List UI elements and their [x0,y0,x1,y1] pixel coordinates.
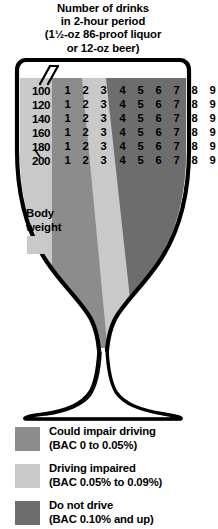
chart-legend: Could impair driving (BAC 0 to 0.05%) Dr… [0,425,206,529]
drink-cell: 9 [207,98,218,111]
body-weight-line-1: Body [26,207,61,221]
legend-text-driving-impaired: Driving impaired (BAC 0.05% to 0.09%) [49,461,207,489]
legend-text-do-not-drive: Do not drive (BAC 0.10% and up) [49,498,207,526]
legend-swatch-do-not-drive [15,501,40,525]
glass-stem-right [107,350,164,414]
legend-sublabel: (BAC 0.10% and up) [49,512,207,526]
legend-sublabel: (BAC 0.05% to 0.09%) [49,475,207,489]
glass-stem-left [44,350,99,414]
legend-swatch-could-impair-driving [15,427,40,451]
legend-item-driving-impaired: Driving impaired (BAC 0.05% to 0.09%) [0,462,206,495]
legend-label: Driving impaired [49,461,207,475]
legend-swatch-driving-impaired [15,464,40,488]
body-weight-callout-label: Body weight [26,207,61,234]
body-weight-swatch [27,236,48,254]
drink-cell: 9 [207,84,218,97]
wine-glass-illustration: 100 1 2 3 4 5 6 7 8 [0,0,206,424]
legend-item-could-impair-driving: Could impair driving (BAC 0 to 0.05%) [0,425,206,458]
legend-text-could-impair-driving: Could impair driving (BAC 0 to 0.05%) [49,424,207,452]
body-weight-line-2: weight [26,221,61,235]
legend-label: Do not drive [49,498,207,512]
drink-cell: 9 [207,112,218,125]
legend-label: Could impair driving [49,424,207,438]
drink-cell: 9 [207,140,218,153]
legend-sublabel: (BAC 0 to 0.05%) [49,438,207,452]
drink-cell: 9 [207,126,218,139]
legend-item-do-not-drive: Do not drive (BAC 0.10% and up) [0,499,206,529]
drink-cell: 9 [207,154,218,167]
